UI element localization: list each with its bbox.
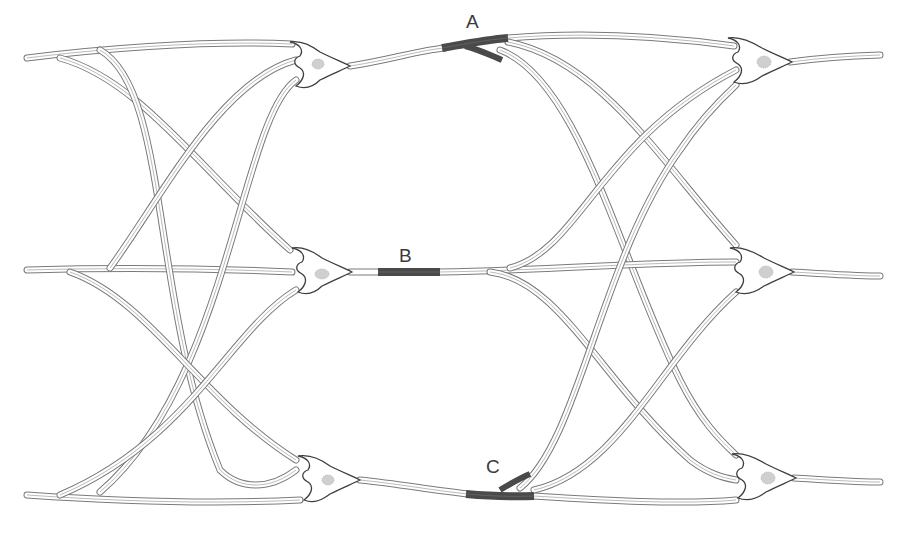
neuron-right-bottom: [732, 454, 796, 500]
label-B: B: [399, 246, 412, 265]
axon-left-top: [350, 48, 445, 66]
neuron-left-middle: [292, 248, 352, 294]
label-A: A: [466, 12, 479, 31]
neuron-left-bottom: [298, 456, 360, 502]
nucleus: [312, 59, 324, 69]
axon-right-out: [790, 55, 880, 482]
label-C: C: [486, 457, 500, 476]
neural-network-diagram: [0, 0, 898, 539]
axon-left-bottom: [360, 480, 468, 494]
fiber-left-bot-in: [27, 495, 300, 502]
fiber-from-C: [520, 85, 736, 502]
neuron-right-middle: [730, 248, 794, 294]
fiber-left-top-in: [27, 43, 292, 58]
neuron-right-top: [728, 38, 792, 84]
fiber-from-A: [500, 35, 736, 455]
